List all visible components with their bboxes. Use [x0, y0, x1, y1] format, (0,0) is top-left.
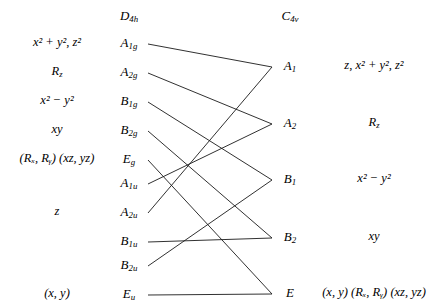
left-species-B2u: B2u [121, 257, 138, 273]
species-subscript: 1g [129, 99, 138, 109]
right-functions-B2: xy [368, 229, 379, 244]
function-text: (Rₓ, Rᵧ) (xz, yz) [20, 151, 95, 165]
function-text: R [369, 115, 377, 129]
species-subscript: 1u [129, 181, 138, 191]
species-symbol: A [284, 115, 292, 130]
left-species-Eu: Eu [123, 286, 135, 302]
function-text: z, x² + y², z² [344, 58, 403, 72]
species-subscript: 1 [292, 177, 296, 187]
species-subscript: 1g [129, 41, 138, 51]
species-subscript: 2 [292, 235, 296, 245]
left-functions-Eg: (Rₓ, Rᵧ) (xz, yz) [20, 151, 95, 166]
function-text: R [52, 64, 60, 78]
function-text: x² − y² [40, 93, 73, 107]
correlation-line-Eu-to-E [148, 294, 272, 295]
species-subscript: 1 [292, 64, 296, 74]
species-symbol: A [121, 175, 129, 190]
correlation-line-B1g-to-B1 [148, 102, 272, 180]
correlation-line-B2u-to-B1 [148, 180, 272, 266]
species-symbol: E [123, 151, 131, 166]
left-species-B1u: B1u [121, 233, 138, 249]
correlation-line-A2u-to-A1 [148, 67, 272, 213]
function-text: xy [51, 122, 62, 136]
right-functions-A1: z, x² + y², z² [344, 58, 403, 73]
function-subscript: z [59, 69, 62, 79]
right-functions-A2: Rz [369, 115, 380, 130]
right-group-header: C4v [281, 8, 298, 24]
left-species-B1g: B1g [121, 93, 138, 109]
left-species-Eg: Eg [123, 151, 135, 167]
correlation-line-Eg-to-E [148, 160, 272, 294]
right-functions-E: (x, y) (Rₓ, Rᵧ) (xz, yz) [322, 285, 426, 300]
species-symbol: E [286, 285, 294, 300]
species-symbol: B [284, 171, 292, 186]
left-species-A1g: A1g [121, 35, 138, 51]
left-species-A2g: A2g [121, 64, 138, 80]
function-text: x² + y², z² [33, 35, 81, 49]
right-species-A2: A2 [284, 115, 296, 131]
function-subscript: z [376, 120, 379, 130]
species-subscript: 1u [129, 239, 138, 249]
correlation-line-B2g-to-B2 [148, 131, 272, 238]
left-functions-A2u: z [55, 204, 60, 219]
right-species-B2: B2 [284, 229, 296, 245]
left-group-header: D4h [120, 8, 138, 24]
right-species-E: E [286, 285, 294, 301]
left-functions-B1g: x² − y² [40, 93, 73, 108]
species-subscript: 2 [292, 121, 296, 131]
left-species-B2g: B2g [121, 122, 138, 138]
left-functions-Eu: (x, y) [44, 286, 70, 301]
species-symbol: B [121, 122, 129, 137]
left-functions-A1g: x² + y², z² [33, 35, 81, 50]
right-species-B1: B1 [284, 171, 296, 187]
species-symbol: A [121, 35, 129, 50]
function-text: z [55, 204, 60, 218]
right-group-subscript: 4v [290, 14, 298, 24]
species-symbol: A [284, 58, 292, 73]
correlation-line-A1u-to-A2 [148, 124, 272, 184]
correlation-line-B1u-to-B2 [148, 238, 272, 242]
right-functions-B1: x² − y² [357, 171, 390, 186]
species-subscript: 2u [129, 210, 138, 220]
species-symbol: E [123, 286, 131, 301]
left-group-subscript: 4h [129, 14, 138, 24]
left-group-symbol: D [120, 8, 129, 23]
function-text: xy [368, 229, 379, 243]
correlation-line-A1g-to-A1 [148, 44, 272, 67]
function-text: (x, y) [44, 286, 70, 300]
species-subscript: 2g [129, 128, 138, 138]
left-species-A1u: A1u [121, 175, 138, 191]
species-symbol: A [121, 204, 129, 219]
function-text: (x, y) (Rₓ, Rᵧ) (xz, yz) [322, 285, 426, 299]
species-subscript: u [131, 292, 135, 302]
right-species-A1: A1 [284, 58, 296, 74]
species-subscript: 2g [129, 70, 138, 80]
species-symbol: B [121, 257, 129, 272]
left-species-A2u: A2u [121, 204, 138, 220]
left-functions-A2g: Rz [52, 64, 63, 79]
left-functions-B2g: xy [51, 122, 62, 137]
right-group-symbol: C [281, 8, 290, 23]
species-symbol: A [121, 64, 129, 79]
function-text: x² − y² [357, 171, 390, 185]
species-subscript: g [131, 157, 135, 167]
species-symbol: B [284, 229, 292, 244]
species-symbol: B [121, 93, 129, 108]
correlation-line-A2g-to-A2 [148, 73, 272, 124]
species-symbol: B [121, 233, 129, 248]
species-subscript: 2u [129, 263, 138, 273]
